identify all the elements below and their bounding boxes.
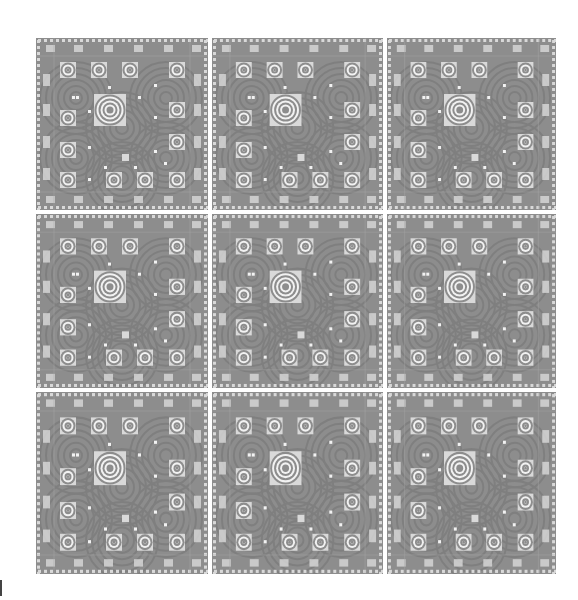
die-tile-r2-c0 bbox=[36, 392, 208, 574]
die-photo bbox=[387, 392, 556, 574]
die-image-grid bbox=[36, 38, 556, 575]
die-tile-r1-c2 bbox=[387, 214, 556, 388]
die-photo bbox=[36, 392, 208, 574]
die-tile-r0-c1 bbox=[212, 38, 383, 210]
die-photo bbox=[36, 38, 208, 210]
die-tile-r1-c1 bbox=[212, 214, 383, 388]
die-photo bbox=[36, 214, 208, 388]
die-tile-r0-c2 bbox=[387, 38, 556, 210]
die-photo bbox=[212, 392, 383, 574]
die-tile-r1-c0 bbox=[36, 214, 208, 388]
die-photo bbox=[212, 38, 383, 210]
die-tile-r2-c2 bbox=[387, 392, 556, 574]
die-photo bbox=[387, 38, 556, 210]
edge-mark bbox=[0, 580, 2, 596]
die-tile-r2-c1 bbox=[212, 392, 383, 574]
die-tile-r0-c0 bbox=[36, 38, 208, 210]
die-photo bbox=[387, 214, 556, 388]
die-photo bbox=[212, 214, 383, 388]
